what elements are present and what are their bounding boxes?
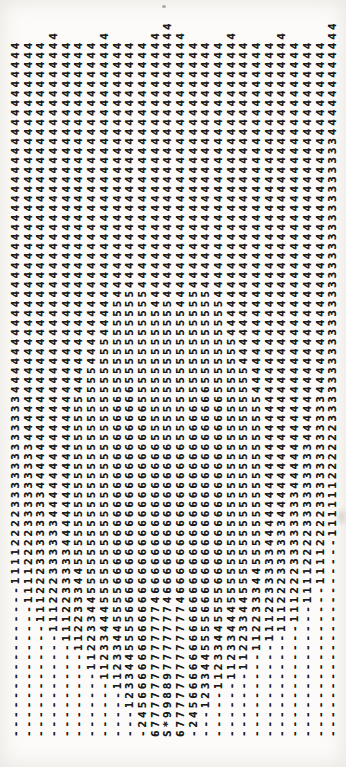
scan-speck-top <box>162 5 166 8</box>
printer-plot-text: ----------------111122223333333333334444… <box>10 30 340 737</box>
printer-plot-rotated-block: ----------------111122223333333333334444… <box>10 30 340 737</box>
printer-plot: ----------------111122223333333333334444… <box>10 30 340 737</box>
scanned-printout-page: ----------------111122223333333333334444… <box>0 0 346 767</box>
